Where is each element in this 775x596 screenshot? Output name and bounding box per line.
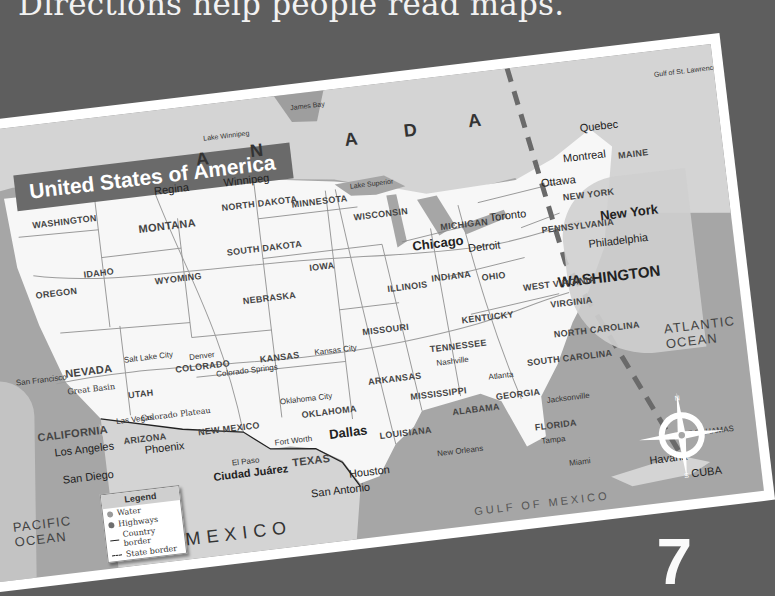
water-swatch-icon bbox=[107, 511, 114, 518]
us-map: United States of America A N A D A Regin… bbox=[0, 44, 764, 582]
canada-letter: A bbox=[467, 110, 482, 132]
compass-n: N bbox=[674, 394, 680, 402]
highway-swatch-icon bbox=[108, 522, 115, 529]
hand-left bbox=[0, 381, 39, 582]
state-border-dash-icon bbox=[112, 554, 122, 556]
compass-rose-icon: N S bbox=[632, 385, 732, 485]
headline: Directions help people read maps. bbox=[18, 0, 564, 22]
page-number: 7 bbox=[656, 525, 692, 596]
canada-letter: A bbox=[343, 129, 358, 151]
canada-letter: N bbox=[249, 140, 264, 162]
canada-letter: D bbox=[403, 119, 418, 141]
canada-letter: A bbox=[195, 148, 210, 170]
map-legend: Legend Water Highways Country border Sta… bbox=[100, 485, 188, 563]
country-border-line-icon bbox=[110, 539, 119, 541]
compass-s: S bbox=[684, 472, 690, 480]
map-card: United States of America A N A D A Regin… bbox=[0, 33, 775, 593]
